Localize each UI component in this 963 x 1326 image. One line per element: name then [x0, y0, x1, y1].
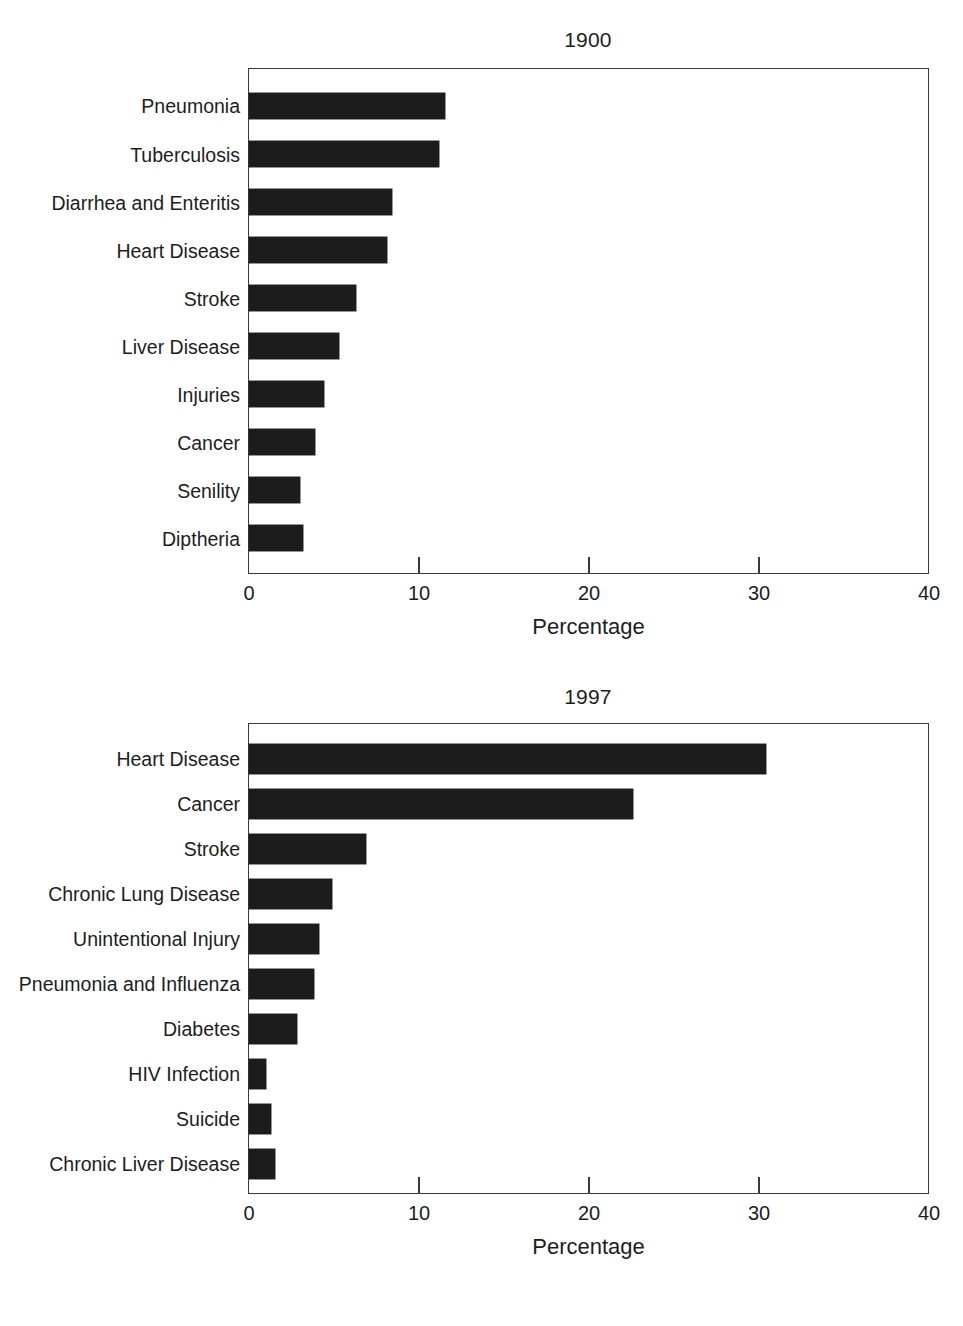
y-axis-label: Unintentional Injury — [0, 930, 240, 950]
y-axis-label: Tuberculosis — [8, 146, 240, 166]
bar[interactable] — [249, 1104, 271, 1134]
bar-row — [249, 1059, 929, 1089]
bar[interactable] — [249, 789, 633, 819]
bar[interactable] — [249, 237, 387, 263]
x-tick — [588, 1177, 590, 1194]
bar[interactable] — [249, 285, 356, 311]
chart-1900: 1900 Pneumonia Tuberculosis Diarrhea and… — [0, 0, 963, 660]
y-axis-label: Cancer — [0, 795, 240, 815]
y-axis-label: Chronic Lung Disease — [0, 885, 240, 905]
bar[interactable] — [249, 969, 314, 999]
bar[interactable] — [249, 93, 445, 119]
y-axis-label: Diabetes — [0, 1020, 240, 1040]
bar-row — [249, 924, 929, 954]
bar-row — [249, 1014, 929, 1044]
y-axis-label: Suicide — [0, 1110, 240, 1130]
bar[interactable] — [249, 429, 315, 455]
bar-row — [249, 1104, 929, 1134]
y-axis-label: Stroke — [8, 290, 240, 310]
x-tick — [418, 1177, 420, 1194]
bar-row — [249, 333, 929, 359]
x-tick — [588, 557, 590, 574]
x-tick-label: 20 — [578, 1202, 600, 1225]
x-tick-label: 30 — [748, 582, 770, 605]
x-axis-title: Percentage — [248, 614, 929, 640]
x-tick — [758, 1177, 760, 1194]
y-axis-label: Liver Disease — [8, 338, 240, 358]
y-axis-label: Injuries — [8, 386, 240, 406]
x-tick-label: 10 — [408, 582, 430, 605]
y-axis-label: HIV Infection — [0, 1065, 240, 1085]
x-tick-label: 0 — [243, 1202, 254, 1225]
bar[interactable] — [249, 834, 366, 864]
x-tick — [758, 557, 760, 574]
bar-row — [249, 834, 929, 864]
x-tick-label: 40 — [918, 1202, 940, 1225]
chart-title: 1900 — [248, 28, 928, 52]
bar[interactable] — [249, 525, 303, 551]
bar-row — [249, 285, 929, 311]
bars-layer — [249, 723, 929, 1194]
bar[interactable] — [249, 189, 392, 215]
x-tick-label: 30 — [748, 1202, 770, 1225]
bar[interactable] — [249, 1014, 297, 1044]
bar[interactable] — [249, 477, 300, 503]
y-axis-label: Chronic Liver Disease — [0, 1155, 240, 1175]
bar-row — [249, 789, 929, 819]
y-axis-label: Pneumonia — [8, 97, 240, 117]
y-axis-label: Cancer — [8, 434, 240, 454]
y-axis-label: Heart Disease — [8, 242, 240, 262]
bar-row — [249, 744, 929, 774]
bar[interactable] — [249, 879, 332, 909]
bar[interactable] — [249, 924, 319, 954]
bar-row — [249, 237, 929, 263]
bar[interactable] — [249, 744, 766, 774]
y-axis-label: Diptheria — [8, 530, 240, 550]
bar-row — [249, 969, 929, 999]
bar-row — [249, 189, 929, 215]
bar-row — [249, 1149, 929, 1179]
x-tick-label: 0 — [243, 582, 254, 605]
y-axis-label: Heart Disease — [0, 750, 240, 770]
bar-row — [249, 141, 929, 167]
bars-layer — [249, 68, 929, 574]
y-axis-label: Stroke — [0, 840, 240, 860]
x-tick-label: 10 — [408, 1202, 430, 1225]
chart-1997: 1997 Heart Disease Cancer Stroke Chronic… — [0, 660, 963, 1326]
bar-row — [249, 93, 929, 119]
x-tick-label: 40 — [918, 582, 940, 605]
chart-title: 1997 — [248, 685, 928, 709]
bar-row — [249, 879, 929, 909]
x-axis-title: Percentage — [248, 1234, 929, 1260]
bar[interactable] — [249, 333, 339, 359]
bar-row — [249, 477, 929, 503]
bar[interactable] — [249, 1059, 266, 1089]
bar[interactable] — [249, 141, 439, 167]
x-tick-label: 20 — [578, 582, 600, 605]
bar-row — [249, 525, 929, 551]
y-axis-label: Pneumonia and Influenza — [0, 975, 240, 995]
x-tick — [418, 557, 420, 574]
y-axis-label: Diarrhea and Enteritis — [8, 194, 240, 214]
bar-row — [249, 381, 929, 407]
y-axis-label: Senility — [8, 482, 240, 502]
bar-row — [249, 429, 929, 455]
bar[interactable] — [249, 1149, 275, 1179]
bar[interactable] — [249, 381, 324, 407]
